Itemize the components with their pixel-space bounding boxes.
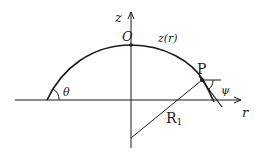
- r-axis-label: r: [242, 105, 249, 120]
- psi-label: ψ: [221, 84, 230, 97]
- radius-label-main: R: [166, 110, 177, 126]
- psi-arc: [209, 80, 213, 89]
- z-axis-label: z: [114, 10, 122, 25]
- diagram: z r O z(r) P θ ψ R1: [0, 0, 263, 152]
- radius-label: R1: [166, 110, 182, 127]
- curve-label: z(r): [157, 32, 178, 45]
- radius-label-subscript: 1: [177, 117, 183, 127]
- theta-arc: [53, 89, 59, 100]
- theta-label: θ: [63, 86, 70, 99]
- radius-line: [131, 80, 202, 138]
- point-p-label: P: [197, 61, 206, 77]
- origin-label: O: [122, 29, 133, 44]
- point-p: [200, 78, 204, 82]
